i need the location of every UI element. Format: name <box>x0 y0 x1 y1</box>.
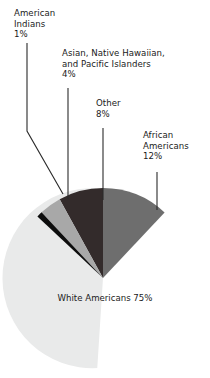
label-american-indians-line2: Indians <box>14 19 55 30</box>
label-other-line1: Other <box>96 98 121 109</box>
label-asian-value: 4% <box>62 69 165 80</box>
label-african-americans-line1: African <box>143 130 189 141</box>
pie-chart: American Indians 1% Asian, Native Hawaii… <box>0 0 210 378</box>
label-asian-native-hawaiian-pacific-islanders: Asian, Native Hawaiian, and Pacific Isla… <box>62 48 165 80</box>
label-african-americans: African Americans 12% <box>143 130 189 162</box>
label-asian-line1: Asian, Native Hawaiian, <box>62 48 165 59</box>
label-african-americans-line2: Americans <box>143 141 189 152</box>
label-african-americans-value: 12% <box>143 151 189 162</box>
label-other-value: 8% <box>96 109 121 120</box>
label-american-indians-line1: American <box>14 8 55 19</box>
label-american-indians: American Indians 1% <box>14 8 55 40</box>
label-american-indians-value: 1% <box>14 29 55 40</box>
label-asian-line2: and Pacific Islanders <box>62 59 165 70</box>
pie-slice-african-americans <box>103 188 165 278</box>
label-other: Other 8% <box>96 98 121 119</box>
leader-line-american-indians <box>27 43 63 194</box>
label-white-americans: White Americans 75% <box>0 293 210 304</box>
